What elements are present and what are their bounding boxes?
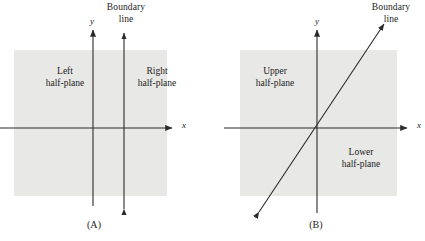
- left-half-plane-label: Left half-plane: [34, 66, 96, 89]
- panel-a-vertical-boundary: Boundary line y x Left half-plane Right …: [0, 0, 213, 241]
- boundary-line-label-b: Boundary line: [360, 2, 422, 25]
- x-axis-label-b: x: [413, 120, 425, 131]
- half-plane-diagram-figure: Boundary line y x Left half-plane Right …: [0, 0, 425, 241]
- panel-a-caption: (A): [78, 219, 110, 230]
- y-axis-label-a: y: [86, 16, 98, 27]
- panel-b-caption: (B): [300, 219, 332, 230]
- y-axis-label-b: y: [311, 16, 323, 27]
- x-axis-label-a: x: [178, 120, 190, 131]
- right-half-plane-label: Right half-plane: [126, 66, 188, 89]
- lower-half-plane-label: Lower half-plane: [326, 147, 396, 170]
- upper-half-plane-label: Upper half-plane: [240, 66, 310, 89]
- panel-b-diagonal-boundary: Boundary line y x Upper half-plane Lower…: [212, 0, 425, 241]
- boundary-line-label-a: Boundary line: [97, 2, 155, 25]
- panel-b-graphic: [212, 0, 425, 241]
